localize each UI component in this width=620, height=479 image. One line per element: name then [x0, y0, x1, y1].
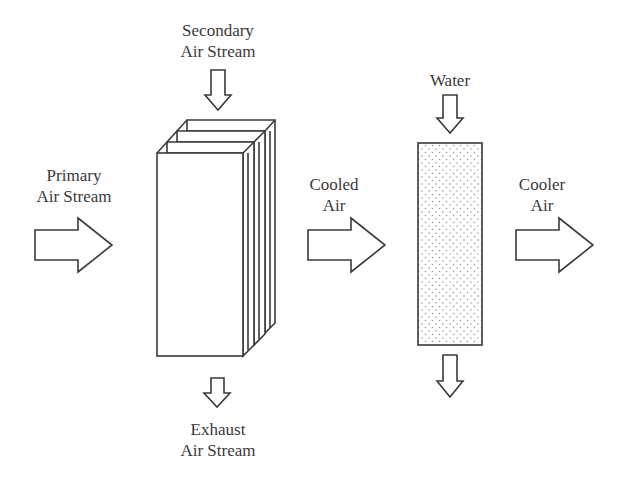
- secondary-air-arrow-icon: [205, 70, 231, 110]
- cooled-air-label: Cooled Air: [294, 174, 374, 216]
- hx-front-face: [157, 153, 243, 356]
- primary-air-label: Primary Air Stream: [24, 165, 124, 207]
- diagram-graphics: [0, 0, 620, 479]
- water-label: Water: [414, 70, 486, 91]
- exhaust-air-arrow-icon: [204, 378, 230, 407]
- heat-exchanger: [157, 120, 275, 356]
- water-in-arrow-icon: [437, 95, 463, 133]
- primary-air-arrow-icon: [35, 218, 112, 272]
- diagram-canvas: Secondary Air Stream Primary Air Stream …: [0, 0, 620, 479]
- cooled-air-arrow-icon: [308, 218, 385, 272]
- exhaust-air-label: Exhaust Air Stream: [165, 419, 271, 461]
- evaporative-pad: [418, 143, 482, 345]
- cooler-air-label: Cooler Air: [502, 174, 582, 216]
- cooler-air-arrow-icon: [516, 218, 593, 272]
- secondary-air-label: Secondary Air Stream: [165, 20, 271, 62]
- water-out-arrow-icon: [437, 355, 463, 397]
